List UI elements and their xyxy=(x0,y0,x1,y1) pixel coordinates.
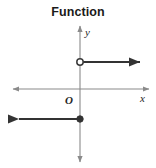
y-axis-label: y xyxy=(84,26,90,38)
origin-label: O xyxy=(65,94,73,106)
coordinate-plane: O y x xyxy=(0,0,156,168)
x-axis-label: x xyxy=(139,92,145,104)
open-endpoint-circle xyxy=(77,59,83,65)
graph-figure: Function O y x xyxy=(0,0,156,168)
closed-endpoint-circle xyxy=(77,116,83,122)
